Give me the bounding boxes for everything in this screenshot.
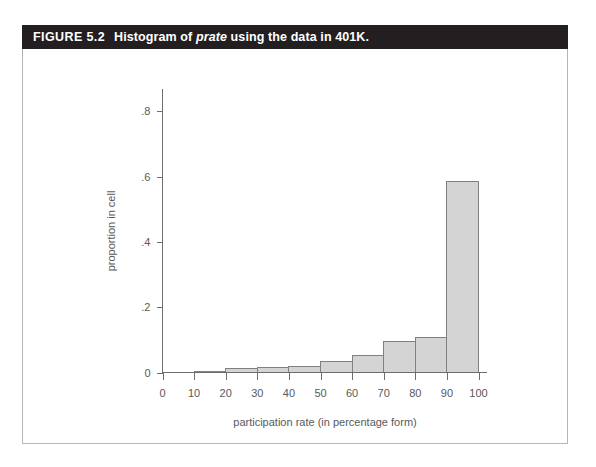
histogram-bar	[289, 367, 321, 373]
figure-caption-variable: prate	[196, 30, 227, 44]
histogram-bar	[321, 362, 353, 373]
figure-number: FIGURE 5.2	[33, 30, 105, 44]
x-axis-title: participation rate (in percentage form)	[233, 416, 416, 428]
y-axis-ticks: 0.2.4.6.8	[141, 105, 162, 378]
histogram-bar	[384, 341, 416, 372]
y-axis-tick-label: 0	[144, 367, 150, 379]
y-axis-tick-label: .4	[141, 236, 150, 248]
histogram-svg: 0.2.4.6.8 0102030405060708090100 proport…	[22, 49, 568, 444]
histogram-bar	[226, 369, 258, 373]
x-axis-tick-label: 40	[283, 387, 295, 399]
y-axis-tick-label: .6	[141, 171, 150, 183]
x-axis-tick-label: 100	[469, 387, 487, 399]
x-axis-tick-label: 80	[409, 387, 421, 399]
x-axis-tick-label: 30	[251, 387, 263, 399]
y-axis-tick-label: .8	[141, 105, 150, 117]
x-axis-ticks: 0102030405060708090100	[159, 373, 487, 399]
x-axis-tick-label: 70	[378, 387, 390, 399]
x-axis-tick-label: 0	[159, 387, 165, 399]
histogram-bar	[447, 181, 479, 372]
y-axis-tick-label: .2	[141, 301, 150, 313]
histogram-bars	[163, 181, 479, 372]
x-axis-tick-label: 20	[220, 387, 232, 399]
x-axis-tick-label: 60	[346, 387, 358, 399]
x-axis-tick-label: 50	[314, 387, 326, 399]
chart-plot-area: 0.2.4.6.8 0102030405060708090100 proport…	[22, 49, 568, 444]
figure-title-bar: FIGURE 5.2Histogram of prate using the d…	[22, 25, 568, 49]
histogram-bar	[257, 368, 289, 373]
x-axis-tick-label: 90	[441, 387, 453, 399]
figure-caption-part2: using the data in 401K.	[227, 30, 369, 44]
histogram-bar	[352, 356, 384, 373]
figure-title: FIGURE 5.2Histogram of prate using the d…	[22, 30, 369, 44]
figure-caption-part1: Histogram of	[114, 30, 196, 44]
x-axis-tick-label: 10	[188, 387, 200, 399]
y-axis-title: proportion in cell	[105, 191, 117, 272]
histogram-bar	[415, 338, 447, 373]
